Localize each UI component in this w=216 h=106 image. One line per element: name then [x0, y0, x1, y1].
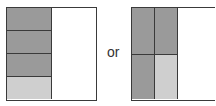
right-cell-4: [155, 55, 178, 99]
left-cell-2: [7, 31, 52, 54]
right-cell-2: [155, 8, 178, 55]
left-cell-3: [7, 54, 52, 77]
left-cell-4: [7, 77, 52, 99]
left-fraction-model: [6, 7, 97, 101]
left-cell-1: [7, 8, 52, 31]
right-fraction-model: [131, 7, 215, 101]
or-label: or: [107, 44, 119, 60]
right-cell-1: [132, 8, 155, 55]
right-cell-3: [132, 55, 155, 99]
